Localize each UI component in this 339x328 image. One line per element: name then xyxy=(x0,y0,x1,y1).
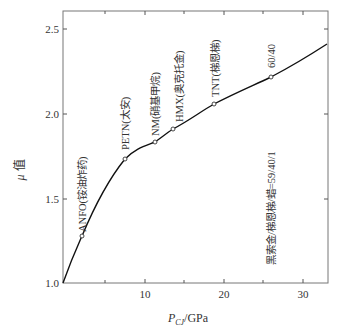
label-composition: 黑索金/梯恩梯/蜡=59/40/1 xyxy=(265,151,277,265)
point-petn xyxy=(123,157,127,161)
plot-frame xyxy=(63,11,328,283)
point-hmx xyxy=(171,127,175,131)
y-axis-title: μ 值 xyxy=(12,159,27,181)
label-nm: NM(硝基甲烷) xyxy=(149,72,162,136)
y-tick-2.0: 2.0 xyxy=(45,108,59,120)
label-anfo: ANFO(铵油炸药) xyxy=(76,156,89,232)
label-petn: PETN(太安) xyxy=(119,96,132,150)
point-tnt xyxy=(212,102,216,106)
y-tick-2.5: 2.5 xyxy=(45,23,59,35)
label-hmx: HMX(奥克托金) xyxy=(173,50,186,122)
y-tick-1.0: 1.0 xyxy=(45,277,59,289)
x-tick-20: 20 xyxy=(219,288,231,300)
x-axis-title: PCJ/GPa xyxy=(167,311,209,327)
y-tick-1.5: 1.5 xyxy=(45,193,59,205)
point-anfo xyxy=(80,234,84,238)
x-tick-30: 30 xyxy=(298,288,310,300)
label-60-40: 60/40 xyxy=(266,44,277,68)
y-ticks xyxy=(63,29,328,199)
point-nm xyxy=(153,140,157,144)
x-tick-10: 10 xyxy=(140,288,152,300)
label-tnt: TNT(梯恩梯) xyxy=(209,39,222,97)
chart: 10 20 30 1.0 1.5 2.0 2.5 μ 值 PCJ/GPa ANF… xyxy=(0,0,339,328)
fit-curve xyxy=(63,44,327,283)
point-60-40 xyxy=(269,75,273,79)
